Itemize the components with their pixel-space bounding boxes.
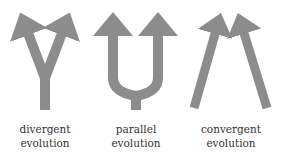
label-line: convergent — [186, 122, 276, 136]
parallel-diagram — [113, 20, 158, 110]
label-line: evolution — [0, 136, 90, 150]
label-line: evolution — [91, 136, 181, 150]
divergent-diagram — [23, 20, 67, 110]
divergent-left-arrow — [23, 20, 45, 78]
label-line: parallel — [91, 122, 181, 136]
divergent-label: divergent evolution — [0, 122, 90, 150]
convergent-label: convergent evolution — [186, 122, 276, 150]
convergent-diagram — [194, 20, 267, 108]
divergent-right-arrow — [45, 20, 67, 78]
convergent-left-arrow — [194, 20, 219, 108]
convergent-right-arrow — [240, 20, 267, 108]
label-line: evolution — [186, 136, 276, 150]
label-line: divergent — [0, 122, 90, 136]
parallel-label: parallel evolution — [91, 122, 181, 150]
parallel-arrows — [113, 20, 158, 96]
